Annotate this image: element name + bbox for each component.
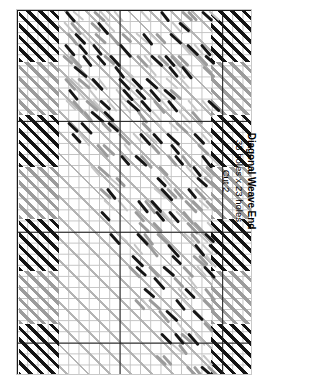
chart-dimensions: 33 holes x 23 holes <box>232 96 245 266</box>
chart-title: Diagonal Weave End <box>245 96 258 266</box>
chart-caption: Diagonal Weave End 33 holes x 23 holes C… <box>206 96 258 266</box>
chart-cut-count: Cut 2 <box>220 96 233 266</box>
